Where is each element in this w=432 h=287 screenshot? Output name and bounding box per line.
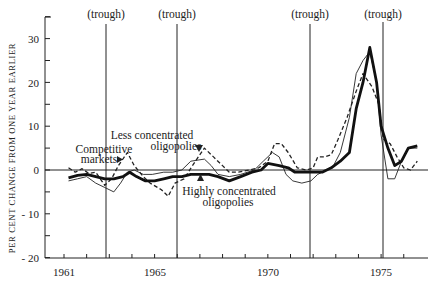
annotation-competitive-line2: markets [81,153,118,165]
y-tick-label-20: 20 [28,77,40,89]
x-tick-labels: 1961 1965 1970 1975 [53,266,393,278]
y-tick-labels: 30 20 10 0 - 10 - 20 [22,33,40,264]
trough-label-2: (trough) [158,8,196,21]
trough-labels: (trough) (trough) (trough) (trough) [87,8,402,21]
y-tick-label-30: 30 [28,33,40,45]
annotation-highly-line2: oligopolies [202,196,254,209]
x-tick-label-1975: 1975 [370,266,393,278]
x-tick-label-1965: 1965 [144,266,167,278]
trough-label-4: (trough) [364,8,402,21]
trough-label-3: (trough) [291,8,329,21]
y-tick-label-m10: - 10 [22,208,40,220]
annotation-highly-concentrated: Highly concentrated oligopolies [182,174,276,209]
right-triangle-icon [117,156,123,163]
line-chart: PER CENT CHANGE FROM ONE YEAR EARLIER 30… [0,0,432,287]
x-ticks [64,254,404,258]
y-tick-label-m20: - 20 [22,252,40,264]
annotation-less-line2: oligopolies [150,140,202,153]
y-axis-label: PER CENT CHANGE FROM ONE YEAR EARLIER [7,43,17,253]
annotation-competitive-markets: Competitive markets [76,143,133,165]
trough-label-1: (trough) [87,8,125,21]
y-tick-label-0: 0 [34,164,40,176]
y-ticks [45,17,50,258]
x-tick-label-1961: 1961 [53,266,75,278]
series-highly-concentrated-oligopolies [69,47,418,181]
x-tick-label-1970: 1970 [257,266,280,278]
y-tick-label-10: 10 [28,120,40,132]
